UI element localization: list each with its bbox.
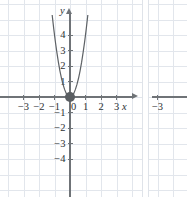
- grid-line-horizontal: [148, 4, 187, 5]
- grid-line-horizontal: [148, 35, 187, 36]
- grid-line-horizontal: [148, 159, 187, 160]
- x-tick-next: [157, 95, 158, 100]
- grid-line-horizontal: [148, 175, 187, 176]
- grid-line-horizontal: [148, 82, 187, 83]
- x-axis-label: x: [122, 101, 127, 112]
- grid-line-horizontal: [148, 113, 187, 114]
- grid-lines-next: [148, 0, 187, 197]
- figure-canvas: −3−2−101234321−1−2−3−4 x y −3: [0, 0, 187, 197]
- grid-line-horizontal: [148, 144, 187, 145]
- grid-line-horizontal: [148, 20, 187, 21]
- grid-line-horizontal: [148, 51, 187, 52]
- panel-divider-next: [148, 0, 149, 197]
- grid-line-horizontal: [148, 128, 187, 129]
- x-tick-label-next: −3: [152, 102, 163, 113]
- grid-line-horizontal: [148, 190, 187, 191]
- graph-panel-main: −3−2−101234321−1−2−3−4 x y: [0, 0, 143, 197]
- graph-panel-next: −3: [148, 0, 187, 197]
- panel-divider-main: [142, 0, 143, 197]
- grid-line-vertical: [173, 0, 174, 197]
- y-axis-label: y: [60, 5, 65, 16]
- grid-line-horizontal: [148, 66, 187, 67]
